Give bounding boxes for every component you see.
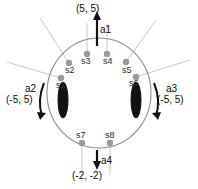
diagram-canvas: s1 s2 s3 s4 s5 s6 s7 s8 (5, 5) a1 a2 (-5… bbox=[0, 0, 198, 189]
sensor-label-s8: s8 bbox=[105, 131, 115, 140]
actuator-label-a2: a2 bbox=[25, 84, 36, 94]
actuator-label-a3: a3 bbox=[166, 84, 177, 94]
sensor-label-s3: s3 bbox=[81, 57, 91, 66]
sensor-ray-s2 bbox=[40, 18, 69, 63]
sensor-ray-s1 bbox=[7, 62, 61, 78]
actuator-label-a1: a1 bbox=[100, 25, 111, 35]
actuator-label-a4: a4 bbox=[101, 156, 112, 166]
sensor-label-s7: s7 bbox=[76, 131, 86, 140]
actuator-value-a1: (5, 5) bbox=[76, 4, 99, 14]
sensor-dot-s7 bbox=[79, 140, 85, 146]
sensor-ray-s6 bbox=[136, 60, 190, 77]
actuator-value-a3: (-5, 5) bbox=[157, 95, 184, 105]
actuator-arrow-a4 bbox=[93, 150, 101, 170]
actuator-value-a2: (-5, 5) bbox=[6, 95, 33, 105]
sensor-label-s1: s1 bbox=[56, 81, 66, 90]
sensor-dot-s8 bbox=[107, 140, 113, 146]
sensor-label-s4: s4 bbox=[103, 57, 113, 66]
sensor-ray-s5 bbox=[126, 20, 156, 62]
sensor-label-s2: s2 bbox=[65, 66, 75, 75]
actuator-arc-a2 bbox=[37, 83, 46, 120]
sensor-label-s6: s6 bbox=[129, 79, 139, 88]
actuator-value-a4: (-2, -2) bbox=[72, 171, 102, 181]
sensor-label-s5: s5 bbox=[122, 66, 132, 75]
